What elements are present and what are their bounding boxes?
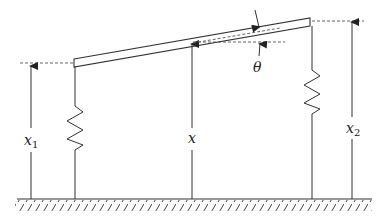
theta-indicator: θ [193,10,285,75]
x1-dimension: x1 [20,63,74,199]
theta-label: θ [253,59,262,75]
x-dimension: x [188,44,196,199]
x-label: x [188,130,196,146]
x2-dimension: x2 [312,21,364,199]
right-spring [304,26,320,199]
ground [15,199,372,211]
x2-label: x2 [346,120,360,138]
spring-bar-diagram: x1 x x2 θ [0,0,383,220]
x1-label: x1 [24,132,38,150]
left-spring [67,67,83,199]
